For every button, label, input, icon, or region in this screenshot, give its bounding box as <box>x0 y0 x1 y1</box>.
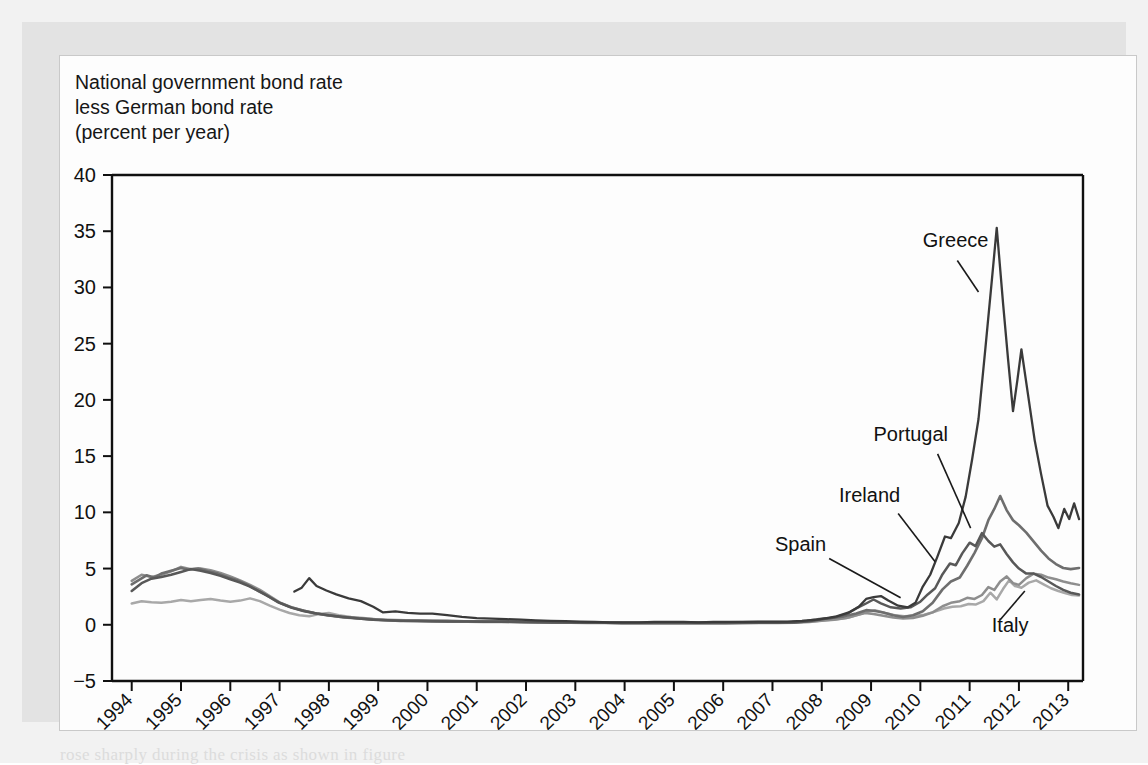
series-line-greece <box>294 228 1079 622</box>
x-axis-tick-label: 2003 <box>535 689 580 731</box>
y-axis-tick-label: 25 <box>74 333 96 355</box>
x-axis-tick-label: 1995 <box>141 689 186 731</box>
y-axis-tick-label: 10 <box>74 501 96 523</box>
x-axis-tick-label: 2011 <box>931 689 975 731</box>
figure-panel: National government bond rate less Germa… <box>59 55 1137 731</box>
leader-line-ireland <box>898 513 935 561</box>
y-axis-tick-label: 35 <box>74 220 96 242</box>
x-axis-tick-label: 2001 <box>437 689 482 731</box>
series-label-italy: Italy <box>992 614 1029 636</box>
bond-spread-line-chart: −505101520253035401994199519961997199819… <box>60 56 1137 731</box>
x-axis-tick-label: 2008 <box>782 689 827 731</box>
series-label-greece: Greece <box>923 229 989 251</box>
x-axis-tick-label: 2002 <box>486 689 531 731</box>
y-axis-tick-label: 40 <box>74 164 96 186</box>
x-axis-tick-label: 1998 <box>289 689 334 731</box>
x-axis-tick-label: 1997 <box>240 689 285 731</box>
y-axis-tick-label: 5 <box>85 558 96 580</box>
x-axis-tick-label: 2012 <box>979 689 1024 731</box>
series-label-spain: Spain <box>775 533 826 555</box>
figure-frame: National government bond rate less Germa… <box>22 22 1126 722</box>
y-axis-tick-label: 15 <box>74 445 96 467</box>
x-axis-tick-label: 2007 <box>733 689 778 731</box>
y-axis-tick-label: −5 <box>73 670 96 692</box>
x-axis-tick-label: 2013 <box>1028 689 1073 731</box>
x-axis-tick-label: 2000 <box>388 689 433 731</box>
x-axis-tick-label: 1996 <box>190 689 235 731</box>
series-label-ireland: Ireland <box>839 484 900 506</box>
leader-line-greece <box>957 260 978 291</box>
y-axis-tick-label: 0 <box>85 614 96 636</box>
bleedthrough-line: rose sharply during the crisis as shown … <box>60 745 405 765</box>
x-axis-tick-label: 1999 <box>338 689 383 731</box>
series-label-portugal: Portugal <box>874 423 949 445</box>
x-axis-tick-label: 2005 <box>634 689 679 731</box>
x-axis-tick-label: 1994 <box>92 689 137 731</box>
x-axis-tick-label: 2006 <box>683 689 728 731</box>
x-axis-tick-label: 2004 <box>585 689 630 731</box>
x-axis-tick-label: 2010 <box>880 689 925 731</box>
leader-line-spain <box>829 558 900 597</box>
y-axis-tick-label: 30 <box>74 276 96 298</box>
y-axis-tick-label: 20 <box>74 389 96 411</box>
x-axis-tick-label: 2009 <box>831 689 876 731</box>
